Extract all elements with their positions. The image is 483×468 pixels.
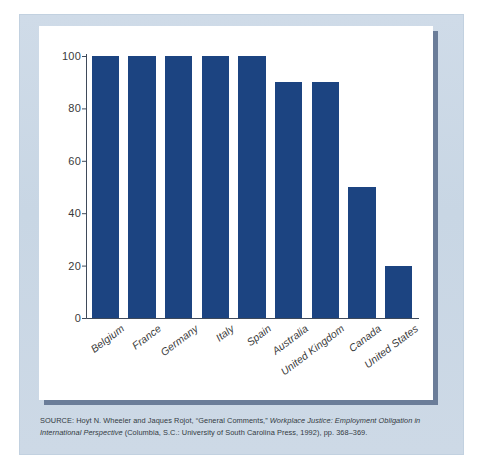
x-tick-label: Spain: [244, 322, 273, 348]
bar-chart: 020406080100 BelgiumFranceGermanyItalySp…: [39, 26, 433, 400]
bars-layer: [87, 56, 417, 318]
source-caption: SOURCE: Hoyt N. Wheeler and Jaques Rojot…: [40, 415, 444, 438]
bar: [238, 56, 265, 318]
bar: [312, 82, 339, 318]
bar: [275, 82, 302, 318]
bar: [92, 56, 119, 318]
plot-card: 020406080100 BelgiumFranceGermanyItalySp…: [39, 26, 433, 400]
caption-article-title: “General Comments,”: [196, 416, 270, 425]
y-tick-label: 40: [68, 208, 81, 219]
bar-slot: [124, 56, 161, 318]
bar-slot: [307, 56, 344, 318]
y-tick-label: 100: [62, 51, 81, 62]
bar-slot: [160, 56, 197, 318]
x-tick-label: Belgium: [88, 322, 126, 355]
x-tick-label: Italy: [214, 322, 237, 343]
bar: [385, 266, 412, 318]
caption-authors: Hoyt N. Wheeler and Jaques Rojot,: [74, 416, 196, 425]
bar-slot: [380, 56, 417, 318]
x-tick-label: United Kingdom: [279, 322, 347, 377]
bar-slot: [197, 56, 234, 318]
bar-slot: [87, 56, 124, 318]
bar-slot: [270, 56, 307, 318]
y-tick-label: 60: [68, 155, 81, 166]
y-tick-label: 0: [75, 313, 81, 324]
y-tick-label: 80: [68, 103, 81, 114]
bar-slot: [234, 56, 271, 318]
bar-slot: [344, 56, 381, 318]
y-tick-label: 20: [68, 260, 81, 271]
bar: [128, 56, 155, 318]
caption-publication: (Columbia, S.C.: University of South Car…: [123, 428, 368, 437]
bar: [348, 187, 375, 318]
figure-frame: 020406080100 BelgiumFranceGermanyItalySp…: [19, 14, 464, 455]
bar: [165, 56, 192, 318]
y-axis: 020406080100: [53, 26, 81, 400]
caption-source-prefix: SOURCE:: [40, 416, 74, 425]
x-tick-label: Germany: [158, 322, 200, 358]
bar: [202, 56, 229, 318]
x-axis: BelgiumFranceGermanyItalySpainAustraliaU…: [87, 322, 417, 400]
